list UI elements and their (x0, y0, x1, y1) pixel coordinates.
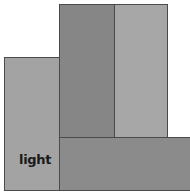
block-right-top (114, 4, 168, 138)
block-left-label: light (19, 152, 51, 167)
block-middle-top (59, 4, 115, 138)
block-left: light (4, 57, 60, 191)
block-bottom (59, 137, 190, 191)
